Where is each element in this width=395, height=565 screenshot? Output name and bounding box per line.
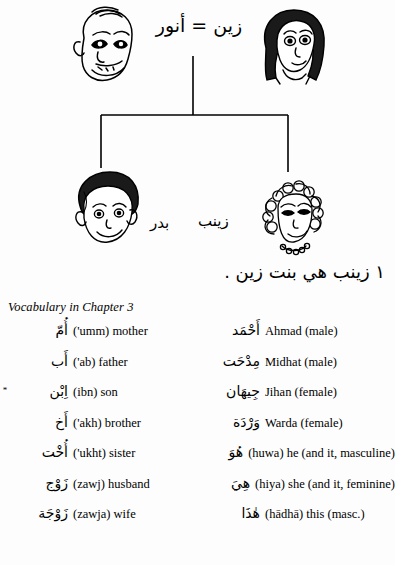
vocabulary-row: زَوْج (zawj) husband هِيَ (hiya) she (an… [0, 475, 395, 506]
vocabulary-entry: * اِبْن (ibn) son [0, 383, 186, 400]
vocabulary-entry: هِيَ (hiya) she (and it, feminine) [186, 475, 395, 492]
vocabulary-title: Vocabulary in Chapter 3 [8, 300, 134, 315]
gloss-text: (huwa) he (and it, masculine) [248, 446, 395, 461]
vocabulary-entry: زَوْجَة (zawja) wife [0, 505, 186, 522]
vocabulary-row: أُمّ ('umm) mother أَحْمَد Ahmad (male) [0, 322, 395, 353]
daughter-face-icon [252, 170, 336, 264]
arabic-word: أُمّ [10, 322, 73, 338]
arabic-word: جِيهَان [196, 383, 265, 399]
gloss-text: Ahmad (male) [265, 324, 338, 339]
vocabulary-entry: أُخْت ('ukht) sister [0, 444, 186, 461]
gloss-text: ('umm) mother [73, 324, 148, 339]
arabic-word: اِبْن [10, 383, 73, 399]
arabic-word: هِيَ [195, 475, 255, 491]
vocabulary-entry: جِيهَان Jihan (female) [186, 383, 395, 400]
gloss-text: (zawja) wife [73, 507, 136, 522]
vocabulary-entry: أَحْمَد Ahmad (male) [186, 322, 395, 339]
father-face-icon [62, 4, 140, 88]
footnote-star: * [0, 386, 10, 395]
vocabulary-entry: مِدْحَت Midhat (male) [186, 353, 395, 370]
couple-names-label: زين = أنور [140, 14, 258, 38]
vocabulary-entry: أَب ('ab) father [0, 353, 186, 370]
vocabulary-row: زَوْجَة (zawja) wife هٰذَا (hādhā) this … [0, 505, 395, 536]
arabic-word: زَوْج [10, 475, 73, 491]
gloss-text: ('ukht) sister [73, 446, 135, 461]
gloss-text: Midhat (male) [265, 355, 337, 370]
gloss-text: (ibn) son [73, 385, 118, 400]
vocabulary-row: أَب ('ab) father مِدْحَت Midhat (male) [0, 353, 395, 384]
example-sentence: ١ زينب هي بنت زين . [110, 261, 385, 282]
vocabulary-entry: أُمّ ('umm) mother [0, 322, 186, 339]
arabic-word: أَحْمَد [196, 322, 265, 338]
vocabulary-row: * اِبْن (ibn) son جِيهَان Jihan (female) [0, 383, 395, 414]
gloss-text: Jihan (female) [265, 385, 337, 400]
gloss-text: Warda (female) [265, 416, 343, 431]
gloss-text: (zawj) husband [73, 477, 150, 492]
arabic-word: هُوَ [194, 444, 248, 460]
arabic-word: أَب [10, 353, 73, 369]
vocabulary-entry: هُوَ (huwa) he (and it, masculine) [186, 444, 395, 461]
vocabulary-table: أُمّ ('umm) mother أَحْمَد Ahmad (male) … [0, 322, 395, 536]
vocabulary-entry: أَخ ('akh) brother [0, 414, 186, 431]
mother-face-icon [250, 4, 334, 88]
arabic-word: أَخ [10, 414, 73, 430]
gloss-text: (hiya) she (and it, feminine) [255, 477, 395, 492]
vocabulary-entry: وَرْدَة Warda (female) [186, 414, 395, 431]
gloss-text: ('ab) father [73, 355, 128, 370]
vocabulary-row: أُخْت ('ukht) sister هُوَ (huwa) he (and… [0, 444, 395, 475]
arabic-word: زَوْجَة [10, 505, 73, 521]
family-tree-diagram: زين = أنور [0, 0, 395, 300]
child-name-zaynab: زينب [198, 212, 229, 230]
gloss-text: ('akh) brother [73, 416, 141, 431]
gloss-text: (hādhā) this (masc.) [265, 507, 365, 522]
arabic-word: أُخْت [10, 444, 73, 460]
son-face-icon [62, 166, 148, 252]
vocabulary-entry: زَوْج (zawj) husband [0, 475, 186, 492]
vocabulary-row: أَخ ('akh) brother وَرْدَة Warda (female… [0, 414, 395, 445]
textbook-page: زين = أنور [0, 0, 395, 565]
arabic-word: مِدْحَت [196, 353, 265, 369]
arabic-word: وَرْدَة [196, 414, 265, 430]
arabic-word: هٰذَا [196, 505, 265, 521]
vocabulary-entry: هٰذَا (hādhā) this (masc.) [186, 505, 395, 522]
child-name-badr: بدر [150, 214, 169, 232]
